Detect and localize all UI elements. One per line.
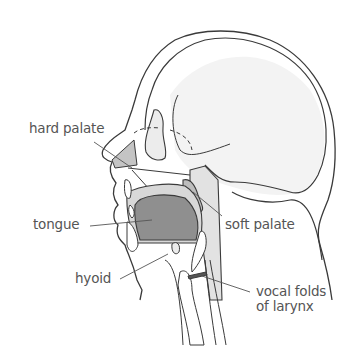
label-hyoid: hyoid [75, 272, 111, 285]
hyoid-bone [172, 243, 180, 254]
cheekbone-outline [145, 110, 166, 160]
label-tongue: tongue [33, 218, 79, 231]
tongue-shape [135, 195, 198, 240]
upper-teeth [124, 180, 131, 199]
label-vocal-folds-line1: vocal folds [256, 285, 326, 298]
vocal-folds [188, 272, 207, 279]
label-vocal-folds-line2: of larynx [256, 300, 314, 313]
label-hard-palate: hard palate [29, 122, 104, 135]
leader-hyoid [120, 254, 168, 279]
nasal-cavity [112, 140, 137, 168]
label-soft-palate: soft palate [225, 218, 295, 231]
